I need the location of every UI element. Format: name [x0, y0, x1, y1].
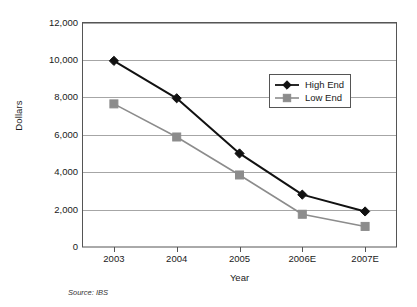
line-chart-figure: Dollars 12,00010,0008,0006,0004,0002,000…: [0, 0, 417, 307]
x-axis-tick-label: 2007E: [330, 253, 400, 264]
square-marker-icon: [274, 92, 300, 104]
legend-entry-low-end: Low End: [274, 91, 344, 104]
data-point-marker: [283, 80, 291, 88]
legend-label: Low End: [305, 92, 342, 103]
chart-legend: High EndLow End: [269, 74, 351, 108]
x-axis-tick-label: 2003: [79, 253, 149, 264]
x-axis-tick-label: 2004: [142, 253, 212, 264]
x-axis-title: Year: [82, 272, 397, 283]
diamond-marker-icon: [274, 79, 300, 91]
legend-entry-high-end: High End: [274, 78, 344, 91]
source-note: Source: IBS: [68, 288, 108, 297]
data-point-marker: [283, 94, 290, 101]
x-axis-tick-label: 2006E: [267, 253, 337, 264]
x-axis-tick-labels: 2003200420052006E2007E: [0, 0, 417, 307]
legend-label: High End: [305, 79, 344, 90]
x-axis-tick-label: 2005: [205, 253, 275, 264]
